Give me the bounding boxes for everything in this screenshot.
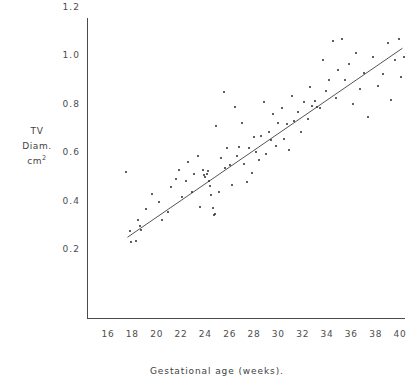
- y-axis-unit-superscript: 2: [42, 154, 47, 162]
- scatter-point: [246, 181, 248, 183]
- scatter-point: [204, 176, 206, 178]
- scatter-point: [277, 122, 279, 124]
- x-tick-label: 26: [219, 329, 241, 339]
- scatter-point: [394, 59, 396, 61]
- scatter-point: [390, 99, 392, 101]
- x-axis-title: Gestational age (weeks).: [150, 366, 390, 376]
- x-tick-label: 32: [292, 329, 314, 339]
- scatter-point: [234, 106, 236, 108]
- scatter-point: [272, 113, 274, 115]
- x-tick-label: 16: [97, 329, 119, 339]
- scatter-point: [311, 105, 313, 107]
- scatter-point: [151, 193, 153, 195]
- y-axis-unit-text: cm: [27, 156, 42, 166]
- scatter-point: [214, 213, 216, 215]
- scatter-point: [199, 206, 201, 208]
- x-tick-label: 22: [170, 329, 192, 339]
- scatter-point: [337, 69, 339, 71]
- scatter-point: [238, 146, 240, 148]
- scatter-point: [398, 38, 400, 40]
- scatter-point: [325, 90, 327, 92]
- scatter-point: [268, 131, 270, 133]
- scatter-point: [255, 151, 257, 153]
- scatter-point: [197, 155, 199, 157]
- scatter-point: [303, 101, 305, 103]
- scatter-point: [297, 111, 299, 113]
- scatter-point: [125, 171, 127, 173]
- x-tick-label: 18: [121, 329, 143, 339]
- scatter-point: [319, 107, 321, 109]
- scatter-point: [140, 229, 142, 231]
- scatter-point: [137, 219, 139, 221]
- scatter-point: [208, 180, 210, 182]
- scatter-point: [175, 178, 177, 180]
- page-folio-number: 54: [4, 0, 15, 2]
- figure-root: 54 ASSESSMENT OF FOETAL BLADDER VOLUME G…: [0, 0, 415, 387]
- scatter-point: [135, 240, 137, 242]
- x-tick-label: 20: [146, 329, 168, 339]
- scatter-point: [300, 131, 302, 133]
- x-axis-tick-labels: 16182022242628303234363840: [0, 329, 415, 343]
- scatter-point: [335, 97, 337, 99]
- scatter-point: [209, 185, 211, 187]
- y-tick-label: 1.2: [46, 2, 80, 12]
- scatter-point: [328, 79, 330, 81]
- scatter-point: [341, 38, 343, 40]
- scatter-point: [307, 118, 309, 120]
- scatter-point: [352, 103, 354, 105]
- scatter-point: [202, 169, 204, 171]
- scatter-point: [355, 52, 357, 54]
- scatter-point: [359, 88, 361, 90]
- scatter-point: [403, 56, 405, 58]
- scatter-point: [145, 208, 147, 210]
- y-axis-title: TV Diam. cm2: [2, 124, 72, 169]
- scatter-point: [275, 145, 277, 147]
- scatter-point: [309, 86, 311, 88]
- y-axis-title-line-3: cm2: [2, 154, 72, 169]
- scatter-point: [286, 123, 288, 125]
- scatter-point: [316, 106, 318, 108]
- scatter-point: [283, 138, 285, 140]
- scatter-point: [129, 230, 131, 232]
- scatter-point: [207, 170, 209, 172]
- y-tick-label: 0.8: [46, 99, 80, 109]
- scatter-point: [382, 73, 384, 75]
- scatter-point: [367, 116, 369, 118]
- scatter-point: [291, 95, 293, 97]
- scatter-point: [203, 174, 205, 176]
- y-tick-label: 0.4: [46, 196, 80, 206]
- scatter-point: [400, 76, 402, 78]
- scatter-point: [251, 172, 253, 174]
- scatter-point: [206, 173, 208, 175]
- scatter-point: [229, 164, 231, 166]
- scatter-point: [248, 147, 250, 149]
- scatter-point: [241, 122, 243, 124]
- scatter-point: [314, 100, 316, 102]
- scatter-point: [220, 157, 222, 159]
- y-axis-title-line-2: Diam.: [2, 139, 72, 154]
- x-tick-label: 36: [340, 329, 362, 339]
- scatter-point: [265, 153, 267, 155]
- scatter-point: [213, 214, 215, 216]
- x-tick-label: 24: [194, 329, 216, 339]
- scatter-point: [348, 63, 350, 65]
- running-header-title: ASSESSMENT OF FOETAL BLADDER VOLUME GROW…: [104, 0, 344, 2]
- scatter-point: [288, 149, 290, 151]
- scatter-point: [231, 184, 233, 186]
- scatter-point: [161, 219, 163, 221]
- scatter-point: [215, 125, 217, 127]
- scatter-point: [377, 85, 379, 87]
- scatter-point: [293, 120, 295, 122]
- scatter-point: [372, 56, 374, 58]
- scatter-point: [344, 79, 346, 81]
- scatter-point: [130, 241, 132, 243]
- y-tick-label: 0.2: [46, 244, 80, 254]
- scatter-point: [253, 136, 255, 138]
- scatter-point: [223, 91, 225, 93]
- x-axis-line: [87, 318, 405, 319]
- scatter-point: [258, 159, 260, 161]
- x-tick-label: 34: [316, 329, 338, 339]
- scatter-point: [191, 191, 193, 193]
- scatter-point: [193, 173, 195, 175]
- scatter-point: [322, 59, 324, 61]
